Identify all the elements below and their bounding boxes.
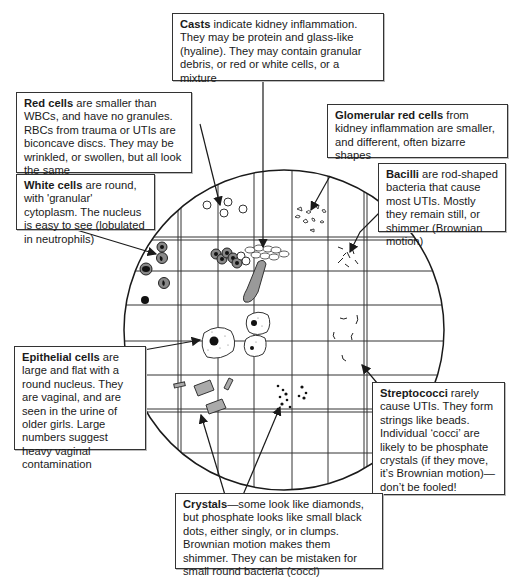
white-cells-term: White cells: [24, 179, 82, 191]
epithelial-cells-term: Epithelial cells: [22, 351, 100, 363]
casts-term: Casts: [180, 18, 210, 30]
crystals-term: Crystals: [183, 498, 227, 510]
label-white-cells: White cells are round, with 'granular' c…: [16, 174, 155, 230]
casts: [243, 245, 289, 302]
glomerular-red-cells: [295, 205, 326, 232]
white-cells: [140, 242, 250, 304]
label-glomerular-red-cells: Glomerular red cells from kidney inflamm…: [327, 104, 508, 158]
label-red-cells: Red cells are smaller than WBCs, and hav…: [16, 92, 192, 173]
bacilli-term: Bacilli: [386, 168, 419, 180]
red-cells: [203, 198, 247, 217]
label-casts: Casts indicate kidney inflammation. They…: [172, 13, 384, 81]
bacilli: [338, 247, 358, 267]
red-cells-term: Red cells: [24, 97, 73, 109]
streptococci-term: Streptococci: [380, 387, 448, 399]
label-epithelial-cells: Epithelial cells are large and flat with…: [14, 346, 146, 450]
white-cell-cluster: [211, 248, 250, 268]
glomerular-red-cells-term: Glomerular red cells: [335, 109, 443, 121]
label-bacilli: Bacilli are rod-shaped bacteria that cau…: [378, 163, 506, 232]
streptococci: [333, 315, 358, 361]
label-crystals: Crystals—some look like diamonds, but ph…: [175, 493, 383, 569]
streptococci-description: rarely cause UTIs. They form strings lik…: [380, 387, 495, 493]
label-streptococci: Streptococci rarely cause UTIs. They for…: [372, 382, 505, 495]
epithelial-cells: [202, 312, 270, 358]
